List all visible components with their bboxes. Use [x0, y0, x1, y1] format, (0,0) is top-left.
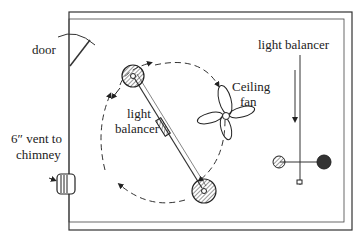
door-label: door [32, 43, 56, 57]
light-balancer-horizontal [273, 55, 331, 185]
door-icon [58, 34, 95, 66]
ceiling-fan-label-line2: fan [240, 95, 257, 109]
vent-icon [49, 174, 75, 194]
vent-label-line2: chimney [16, 148, 61, 162]
room-diagram [0, 0, 360, 239]
light-balancer-right-label: light balancer [258, 38, 329, 52]
light-balancer-left-label-line2: balancer [115, 122, 159, 136]
ceiling-fan-label-line1: Ceiling [232, 80, 270, 94]
vent-label-line1: 6″ vent to [11, 132, 62, 146]
light-balancer-left-label-line1: light [127, 107, 151, 121]
